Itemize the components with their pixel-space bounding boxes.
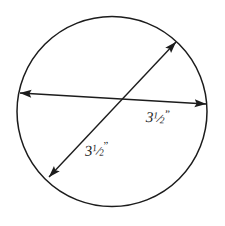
horizontal-diameter-arrow (20, 93, 206, 104)
label-inch-mark: ” (165, 108, 170, 120)
horizontal-diameter-label: 31/2” (146, 108, 171, 126)
label-inch-mark: ” (103, 139, 109, 151)
diagonal-diameter-label: 31/2” (84, 140, 110, 160)
circle-outline (17, 17, 207, 207)
figure-canvas (0, 0, 225, 226)
circle-diameter-figure: 31/2” 31/2” (0, 0, 225, 226)
